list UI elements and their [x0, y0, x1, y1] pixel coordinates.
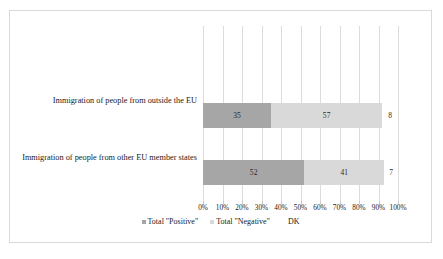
bar-value-label: 7	[389, 169, 393, 177]
bar-segment-positive-1: 52	[203, 160, 304, 185]
axis-tick-label: 90%	[372, 204, 385, 211]
bar-value-label: 8	[388, 112, 392, 120]
chart-legend: Total "Positive" Total "Negative" DK	[10, 218, 431, 226]
axis-tick-label: 100%	[389, 204, 406, 211]
bar-value-label: 57	[323, 112, 331, 120]
legend-item-negative: Total "Negative"	[210, 218, 270, 226]
chart-frame: 35 57 8 52 41 7 Immigration of people fr…	[9, 10, 432, 243]
category-label-1: Immigration of people from other EU memb…	[0, 154, 197, 162]
gridline	[398, 26, 399, 201]
axis-tick-label: 80%	[352, 204, 365, 211]
table-row: 35 57 8	[203, 103, 398, 128]
axis-tick-label: 20%	[235, 204, 248, 211]
legend-item-dk: DK	[282, 218, 300, 226]
bar-value-label: 41	[340, 169, 348, 177]
axis-tick-label: 70%	[333, 204, 346, 211]
legend-swatch-icon	[282, 220, 286, 224]
table-row: 52 41 7	[203, 160, 398, 185]
bar-segment-negative-0: 57	[271, 103, 382, 128]
legend-label: Total "Positive"	[148, 218, 199, 226]
axis-tick-label: 10%	[216, 204, 229, 211]
bar-segment-positive-0: 35	[203, 103, 271, 128]
bar-segment-negative-1: 41	[304, 160, 384, 185]
legend-label: Total "Negative"	[216, 218, 270, 226]
category-label-0: Immigration of people from outside the E…	[0, 97, 197, 105]
x-axis: 0%10%20%30%40%50%60%70%80%90%100%	[203, 201, 398, 215]
axis-tick-label: 40%	[274, 204, 287, 211]
axis-tick-label: 0%	[198, 204, 208, 211]
axis-tick-label: 60%	[313, 204, 326, 211]
plot-area: 35 57 8 52 41 7	[203, 26, 398, 201]
legend-label: DK	[288, 218, 300, 226]
bar-segment-dk-0: 8	[382, 103, 398, 128]
bar-value-label: 52	[250, 169, 258, 177]
axis-tick-label: 30%	[255, 204, 268, 211]
bar-value-label: 35	[233, 112, 241, 120]
legend-item-positive: Total "Positive"	[142, 218, 199, 226]
axis-tick-label: 50%	[294, 204, 307, 211]
legend-swatch-icon	[210, 220, 214, 224]
legend-swatch-icon	[142, 220, 146, 224]
bar-segment-dk-1: 7	[384, 160, 398, 185]
